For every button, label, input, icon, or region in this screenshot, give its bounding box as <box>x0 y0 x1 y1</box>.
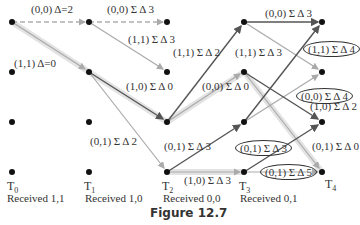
received-label: Received 1,0 <box>85 192 142 204</box>
edge-label: (1,1) Σ Δ 2 <box>173 46 220 58</box>
edge-label: (1,1) Σ Δ 3 <box>128 33 175 45</box>
edge-label: (1,1) Σ Δ 3 <box>235 46 282 58</box>
received-label: Received 0,1 <box>240 192 297 204</box>
edge-label: (0,0) Δ=2 <box>31 3 73 15</box>
edge-label: (0,0) Σ Δ 3 <box>265 7 312 19</box>
edge-label: (0,1) Σ Δ 2 <box>90 135 137 147</box>
received-label: Received 1,1 <box>7 192 64 204</box>
edge-label: (1,0) Σ Δ 3 <box>184 174 231 186</box>
edge-label: (1,0) Σ Δ 2 <box>310 100 357 112</box>
edge-label-circled: (1,1) Σ Δ 4 <box>303 41 360 57</box>
time-label-t4: T4 <box>325 178 336 195</box>
edge-label: (0,1) Σ Δ 3 <box>164 140 211 152</box>
edge-label: (1,1) Δ=0 <box>14 57 56 69</box>
edge-label: (0,0) Σ Δ 0 <box>202 80 249 92</box>
edge-label: (1,0) Σ Δ 0 <box>126 80 173 92</box>
received-label: Received 0,0 <box>163 192 220 204</box>
edge-label: (0,1) Σ Δ 0 <box>312 140 359 152</box>
edge-label: (0,0) Σ Δ 3 <box>107 3 154 15</box>
edge-label-circled: (0,1) Σ Δ 3 <box>235 140 292 156</box>
edge-label-circled: (0,1) Σ Δ 5 <box>260 164 317 180</box>
figure-caption: Figure 12.7 <box>150 206 227 220</box>
